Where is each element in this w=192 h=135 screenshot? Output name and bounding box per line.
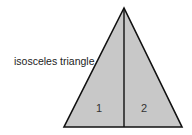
region-1-label: 1 [96,102,102,114]
triangle-label: isosceles triangle [14,55,95,67]
region-2-label: 2 [141,102,147,114]
triangle-shape [64,8,182,127]
isosceles-triangle-diagram: isosceles triangle 1 2 [0,0,192,135]
